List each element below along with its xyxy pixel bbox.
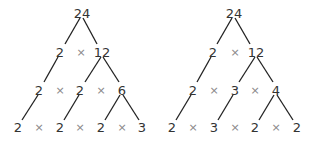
leaf-node: 2 [14, 120, 22, 135]
leaf-node: 3 [138, 120, 146, 135]
leaf-node: 2 [97, 120, 105, 135]
edge [44, 57, 58, 82]
multiply-sign: × [76, 46, 85, 59]
multiply-sign: × [55, 84, 64, 97]
multiply-sign: × [96, 84, 105, 97]
edge [257, 57, 273, 82]
multiply-sign: × [271, 121, 280, 134]
node: 2 [56, 45, 64, 60]
edge [217, 18, 232, 44]
multiply-sign: × [188, 121, 197, 134]
node: 3 [231, 83, 239, 98]
edge [22, 95, 38, 120]
multiply-sign: × [209, 84, 218, 97]
multiply-sign: × [230, 121, 239, 134]
edge [83, 18, 97, 44]
multiply-sign: × [230, 46, 239, 59]
edge [239, 57, 255, 82]
root-node: 24 [74, 6, 91, 21]
edge [123, 95, 139, 120]
node: 6 [118, 83, 126, 98]
node: 2 [209, 45, 217, 60]
leaf-node: 2 [168, 120, 176, 135]
leaf-node: 3 [210, 120, 218, 135]
edge [65, 18, 80, 44]
edge [259, 95, 274, 120]
multiply-sign: × [34, 121, 43, 134]
factor-trees-diagram: 24 2 × 12 2 × 2 × 6 2 × 2 × 2 × 3 24 2 × [0, 0, 317, 143]
multiply-sign: × [75, 121, 84, 134]
factor-tree-left: 24 2 × 12 2 × 2 × 6 2 × 2 × 2 × 3 [14, 6, 146, 135]
edge [277, 95, 293, 120]
node: 2 [189, 83, 197, 98]
edge [85, 57, 101, 82]
multiply-sign: × [117, 121, 126, 134]
edge [235, 18, 250, 44]
edge [103, 57, 119, 82]
node: 12 [248, 45, 265, 60]
node: 2 [76, 83, 84, 98]
leaf-node: 2 [251, 120, 259, 135]
multiply-sign: × [250, 84, 259, 97]
leaf-node: 2 [56, 120, 64, 135]
factor-tree-right: 24 2 × 12 2 × 3 × 4 2 × 3 × 2 × 2 [168, 6, 301, 135]
edge [105, 95, 120, 120]
node: 4 [272, 83, 280, 98]
node: 2 [35, 83, 43, 98]
edge [176, 95, 191, 120]
leaf-node: 2 [293, 120, 301, 135]
root-node: 24 [226, 6, 243, 21]
edge [218, 95, 233, 120]
edge [64, 95, 79, 120]
edge [197, 57, 211, 82]
node: 12 [94, 45, 111, 60]
